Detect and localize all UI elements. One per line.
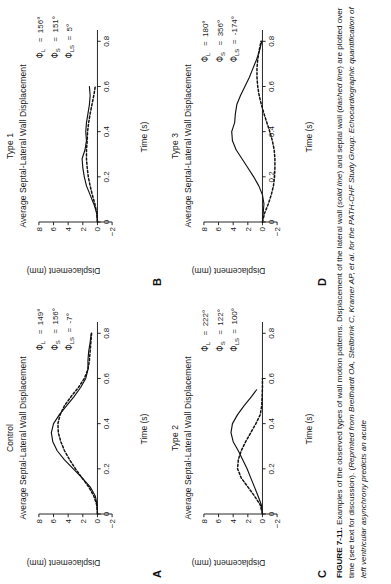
figure-page: Control Average Septal-Lateral Wall Disp…	[0, 0, 391, 584]
svg-text:2: 2	[243, 226, 252, 231]
panel-b-ylabel: Displacement (mm)	[11, 266, 115, 276]
panel-d-ylabel: Displacement (mm)	[176, 266, 280, 276]
svg-text:0.8: 0.8	[266, 327, 275, 339]
caption-segment: Examples of the observed types of wall m…	[334, 205, 343, 527]
svg-text:0.6: 0.6	[266, 372, 275, 384]
figure-caption: FIGURE 7-11. Examples of the observed ty…	[333, 6, 370, 578]
svg-text:0.6: 0.6	[101, 372, 110, 384]
panel-a-title: Average Septal-Lateral Wall Displacement	[17, 292, 27, 584]
panel-d-phi-ls: -174°	[229, 16, 238, 35]
svg-text:0: 0	[101, 511, 110, 516]
panel-b-letter: B	[150, 278, 162, 286]
svg-text:−2: −2	[107, 226, 116, 236]
panel-a-plot: −20246800.20.40.60.8	[30, 318, 134, 540]
svg-text:4: 4	[228, 226, 237, 231]
svg-text:0: 0	[266, 219, 275, 224]
svg-text:6: 6	[214, 518, 223, 523]
svg-text:0: 0	[101, 219, 110, 224]
panel-c-xlabel: Time (s)	[303, 318, 313, 540]
panel-b: Type 1 Average Septal-Lateral Wall Displ…	[0, 0, 165, 292]
svg-text:2: 2	[243, 518, 252, 523]
svg-text:0.4: 0.4	[266, 418, 275, 430]
svg-text:0.2: 0.2	[266, 463, 275, 475]
panel-a-phi-l: 149°	[35, 309, 44, 326]
panel-c: Type 2 Average Septal-Lateral Wall Displ…	[165, 292, 330, 584]
panel-d-phi-s: 356°	[215, 20, 224, 37]
panel-d-annotations: ΦL = 180° ΦS = 356° ΦLS = -174°	[199, 16, 243, 62]
svg-text:8: 8	[34, 226, 43, 231]
svg-text:6: 6	[214, 226, 223, 231]
panel-c-phi-ls: 100°	[229, 308, 238, 325]
panel-c-group-title: Type 2	[169, 292, 179, 584]
panel-d-letter: D	[315, 278, 327, 286]
svg-text:4: 4	[63, 226, 72, 231]
panel-c-phi-l: 222°	[200, 310, 209, 327]
panel-b-chart: −20246800.20.40.60.8	[30, 26, 134, 248]
svg-text:0: 0	[258, 226, 267, 231]
svg-text:−2: −2	[107, 518, 116, 528]
svg-text:0: 0	[266, 511, 275, 516]
panel-b-phi-ls: 5°	[64, 24, 73, 32]
svg-text:0.8: 0.8	[101, 35, 110, 47]
panel-a-phi-s: 156°	[50, 308, 59, 325]
panel-b-phi-l: 156°	[35, 17, 44, 34]
svg-text:0: 0	[258, 518, 267, 523]
svg-text:0.4: 0.4	[101, 126, 110, 138]
svg-text:2: 2	[78, 518, 87, 523]
panel-d-xlabel: Time (s)	[303, 26, 313, 248]
svg-text:6: 6	[49, 518, 58, 523]
caption-segment: ) and septal wall (	[334, 110, 343, 173]
svg-text:4: 4	[228, 518, 237, 523]
svg-text:4: 4	[63, 518, 72, 523]
panel-d-group-title: Type 3	[169, 0, 179, 292]
panel-a-annotations: ΦL = 149° ΦS = 156° ΦLS = -7°	[34, 308, 78, 351]
panel-a-chart: −20246800.20.40.60.8	[30, 318, 134, 540]
svg-text:0: 0	[93, 518, 102, 523]
panel-c-annotations: ΦL = 222° ΦS = 122° ΦLS = 100°	[199, 308, 243, 352]
panel-a-phi-ls: -7°	[64, 313, 73, 323]
panel-b-phi-s: 151°	[50, 16, 59, 33]
caption-segment: solid line	[334, 174, 343, 206]
panel-a-xlabel: Time (s)	[138, 318, 148, 540]
svg-text:0.8: 0.8	[101, 327, 110, 339]
panel-b-plot: −20246800.20.40.60.8	[30, 26, 134, 248]
panel-a-letter: A	[150, 570, 162, 578]
panel-d-phi-l: 180°	[200, 20, 209, 37]
caption-segment: FIGURE 7-11.	[334, 527, 343, 578]
panel-d: Type 3 Average Septal-Lateral Wall Displ…	[165, 0, 330, 292]
svg-text:0: 0	[93, 226, 102, 231]
panel-a: Control Average Septal-Lateral Wall Disp…	[0, 292, 165, 584]
panel-c-phi-s: 122°	[215, 309, 224, 326]
svg-text:0.6: 0.6	[266, 80, 275, 92]
panel-d-title: Average Septal-Lateral Wall Displacement	[182, 0, 192, 292]
panel-a-ylabel: Displacement (mm)	[11, 558, 115, 568]
svg-text:0.4: 0.4	[101, 418, 110, 430]
panel-b-annotations: ΦL = 156° ΦS = 151° ΦLS = 5°	[34, 16, 78, 59]
svg-text:0.2: 0.2	[101, 463, 110, 475]
svg-text:6: 6	[49, 226, 58, 231]
svg-text:−2: −2	[272, 518, 281, 528]
panel-c-letter: C	[315, 570, 327, 578]
panel-c-title: Average Septal-Lateral Wall Displacement	[182, 292, 192, 584]
svg-text:0.6: 0.6	[101, 80, 110, 92]
panel-b-group-title: Type 1	[4, 0, 14, 292]
panel-c-ylabel: Displacement (mm)	[176, 558, 280, 568]
panel-b-xlabel: Time (s)	[138, 26, 148, 248]
svg-text:8: 8	[199, 518, 208, 523]
svg-text:8: 8	[34, 518, 43, 523]
panel-a-group-title: Control	[4, 292, 14, 584]
svg-text:8: 8	[199, 226, 208, 231]
svg-text:2: 2	[78, 226, 87, 231]
svg-text:−2: −2	[272, 226, 281, 236]
figure-panels: Control Average Septal-Lateral Wall Disp…	[0, 0, 330, 584]
svg-text:0.8: 0.8	[266, 35, 275, 47]
svg-text:0.2: 0.2	[101, 171, 110, 183]
panel-b-title: Average Septal-Lateral Wall Displacement	[17, 0, 27, 292]
caption-segment: dashed line	[334, 69, 343, 110]
